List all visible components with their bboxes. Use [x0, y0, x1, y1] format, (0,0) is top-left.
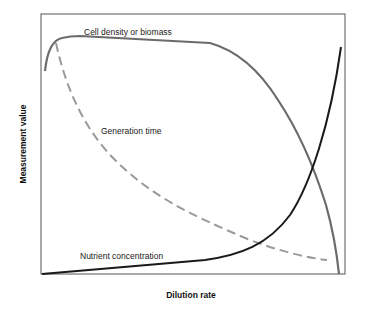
chart: Cell density or biomass Generation time … — [0, 0, 365, 313]
nutrient-concentration-curve — [42, 47, 341, 274]
generation-time-label: Generation time — [101, 126, 162, 136]
cell-density-label: Cell density or biomass — [84, 27, 172, 37]
cell-density-curve — [45, 36, 339, 274]
nutrient-concentration-label: Nutrient concentration — [80, 251, 163, 261]
y-axis-title: Measurement value — [18, 104, 28, 183]
x-axis-title: Dilution rate — [166, 290, 216, 300]
plot-frame — [41, 14, 345, 274]
generation-time-curve — [56, 43, 327, 260]
